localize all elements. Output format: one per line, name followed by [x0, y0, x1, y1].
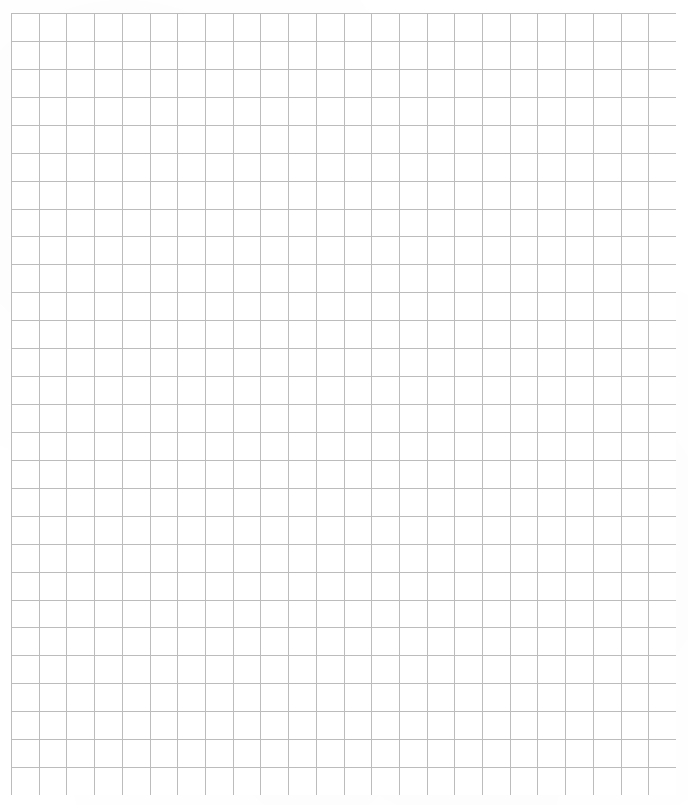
graph-paper-page	[0, 0, 688, 805]
grid-lines	[11, 13, 676, 795]
grid-sheet	[11, 13, 676, 795]
